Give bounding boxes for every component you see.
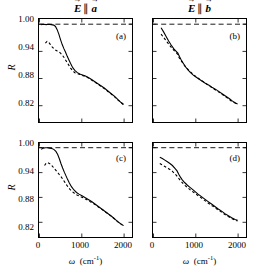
vector-arrow-icon: →: [187, 0, 194, 3]
omega-symbol: ω: [183, 256, 189, 266]
series-model-fit-b: [161, 34, 238, 104]
series-experiment-d: [160, 157, 238, 220]
x-tick-left-0: 0: [25, 240, 51, 250]
axis-symbol-b: →b: [205, 2, 211, 14]
vector-arrow-icon: →: [73, 0, 80, 3]
x-tick-right-0: 0: [139, 240, 165, 250]
field-symbol-e: →E: [74, 2, 81, 14]
panel-d: (d): [152, 142, 247, 238]
x-tick-left-1000: 1000: [67, 240, 93, 250]
panel-label-d: (d): [230, 153, 241, 163]
units-close: ): [99, 256, 102, 266]
x-axis-label-left: ω (cm-1): [38, 254, 133, 266]
y-tick-top-2: 0.94: [8, 42, 34, 52]
x-axis-label-right: ω (cm-1): [152, 254, 247, 266]
series-model-fit-d: [160, 163, 238, 221]
y-tick-top-3: 0.88: [8, 70, 34, 80]
units-open: (cm: [194, 256, 208, 266]
y-tick-bottom-1: 1.00: [8, 138, 34, 148]
y-tick-top-1: 1.00: [8, 14, 34, 24]
column-title-e-parallel-a: →E∥→a: [38, 2, 133, 15]
x-tick-right-2000: 2000: [224, 240, 250, 250]
y-tick-bottom-2: 0.94: [8, 166, 34, 176]
panel-c: (c): [38, 142, 133, 238]
panel-b: (b): [152, 18, 247, 123]
column-title-e-parallel-b: →E∥→b: [152, 2, 247, 15]
vector-arrow-icon: →: [204, 0, 210, 3]
field-symbol-e: →E: [188, 2, 195, 14]
series-experiment-a: [41, 24, 123, 104]
units-open: (cm: [80, 256, 94, 266]
panel-label-b: (b): [230, 31, 241, 41]
axis-symbol-a: →a: [91, 2, 97, 14]
y-tick-bottom-3: 0.88: [8, 194, 34, 204]
panel-a: (a): [38, 18, 133, 123]
series-model-fit-a: [45, 41, 123, 104]
figure-reflectivity-spectra: →E∥→a →E∥→b R R 1.00 0.94 0.88 0.82 1.00…: [0, 0, 258, 272]
x-tick-left-2000: 2000: [110, 240, 136, 250]
panel-label-a: (a): [116, 31, 126, 41]
y-tick-top-4: 0.82: [8, 98, 34, 108]
units-close: ): [213, 256, 216, 266]
series-experiment-b: [161, 28, 238, 104]
omega-symbol: ω: [69, 256, 75, 266]
x-tick-right-1000: 1000: [181, 240, 207, 250]
y-tick-bottom-4: 0.82: [8, 222, 34, 232]
vector-arrow-icon: →: [90, 0, 96, 3]
panel-label-c: (c): [116, 153, 126, 163]
series-experiment-c: [41, 148, 123, 226]
